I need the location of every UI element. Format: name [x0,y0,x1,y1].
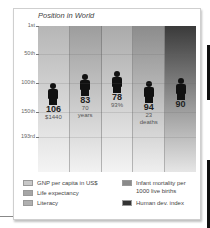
legend-swatch [23,190,33,196]
edge-bar-top [207,45,210,100]
legend-label: Literacy [37,200,58,206]
legend-item-infant-mortality: Infant mortality per [122,180,186,186]
gridline [38,54,196,55]
legend-item-literacy: Literacy [23,200,58,206]
plot-area: 106 $1440 83 70 years 78 93% 94 23 death… [38,26,196,172]
rank-value: 83 [68,96,102,105]
figure-gnp: 106 $1440 [36,83,70,121]
legend-swatch [122,180,132,186]
chart-title: Position in World [38,11,94,20]
person-icon [46,83,60,105]
legend-label: GNP per capita in US$ [37,180,98,186]
column-life-expectancy: 83 70 years [70,26,102,172]
y-tick-label: 50th [13,50,35,56]
legend-label: Human dev. index [136,200,184,206]
rank-value: 90 [164,100,198,109]
y-tick [36,112,39,113]
legend-item-infant-mortality-line2: 1000 live births [136,188,176,194]
legend-swatch [23,200,33,206]
legend-swatch [122,200,132,206]
column-human-dev-index: 90 [165,26,196,172]
person-icon [110,71,124,93]
rank-value: 78 [100,93,134,102]
legend-item-gnp: GNP per capita in US$ [23,180,98,186]
person-icon [142,81,156,103]
gridline [38,112,196,113]
gridline [38,137,196,138]
figure-infant-mortality: 94 23 deaths [132,81,166,125]
legend-item-human-dev-index: Human dev. index [122,200,184,206]
legend-swatch [23,180,33,186]
legend-label: Life expectancy [37,190,79,196]
edge-bar-bottom [207,160,210,228]
y-tick-label: 150th [13,108,35,114]
y-tick-label: 100th [13,79,35,85]
rank-detail-unit: deaths [132,119,166,126]
y-tick-label: 1st [13,22,35,28]
y-tick [36,83,39,84]
y-tick-label: 193rd [13,133,35,139]
figure-literacy: 78 93% [100,71,134,109]
person-icon [174,78,188,100]
rank-detail: 93% [100,102,134,109]
y-tick [36,54,39,55]
column-gnp: 106 $1440 [38,26,70,172]
y-tick [36,26,39,27]
rank-detail: $1440 [36,114,70,121]
gridline [38,83,196,84]
column-literacy: 78 93% [102,26,134,172]
column-infant-mortality: 94 23 deaths [133,26,165,172]
rank-value: 94 [132,103,166,112]
y-tick [36,137,39,138]
legend-item-life-expectancy: Life expectancy [23,190,79,196]
legend-label: Infant mortality per [136,180,186,186]
person-icon [78,74,92,96]
legend-label: 1000 live births [136,188,176,194]
